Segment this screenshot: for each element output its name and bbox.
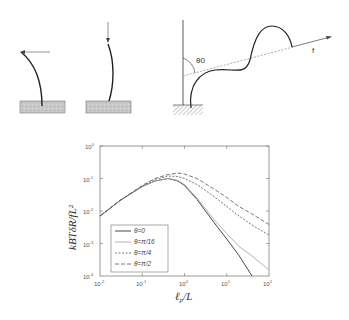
figure-canvas: θ0 f 100 10-1 10-2 10-3 10-4 xyxy=(0,0,349,320)
force-arrow-f xyxy=(292,37,330,47)
panel-b-longitudinal-force xyxy=(86,22,131,113)
svg-text:10-4: 10-4 xyxy=(83,272,94,280)
y-axis-label: kBTδR/fL² xyxy=(66,204,78,250)
legend: θ=0 θ=π/16 θ=π/4 θ=π/2 xyxy=(111,225,168,272)
svg-text:10-1: 10-1 xyxy=(136,279,147,287)
svg-text:100: 100 xyxy=(85,142,95,150)
filament-c xyxy=(191,26,292,108)
filament-a xyxy=(21,52,42,106)
svg-text:101: 101 xyxy=(221,279,231,287)
svg-text:10-3: 10-3 xyxy=(83,240,94,248)
clamp-hatch xyxy=(173,105,203,115)
arrowhead-b-icon xyxy=(106,38,110,43)
panel-c-angled-force: θ0 f xyxy=(173,20,332,115)
angle-arc xyxy=(183,58,195,73)
filament-b xyxy=(108,44,113,101)
x-tick-labels: 10-2 10-1 100 101 102 xyxy=(94,279,273,287)
svg-text:θ=π/2: θ=π/2 xyxy=(134,260,151,267)
chart: 100 10-1 10-2 10-3 10-4 10-2 10-1 100 10… xyxy=(66,142,273,304)
svg-text:10-1: 10-1 xyxy=(83,175,94,183)
svg-text:10-2: 10-2 xyxy=(83,207,94,215)
force-label-f: f xyxy=(312,46,315,55)
substrate-b xyxy=(86,101,131,113)
y-tick-labels: 100 10-1 10-2 10-3 10-4 xyxy=(83,142,95,280)
svg-text:10-2: 10-2 xyxy=(94,279,105,287)
arrowhead-f-icon xyxy=(326,36,332,40)
x-axis-label: ℓp/L xyxy=(175,290,192,304)
svg-text:θ=π/16: θ=π/16 xyxy=(134,238,155,245)
svg-text:θ=π/4: θ=π/4 xyxy=(134,249,151,256)
svg-text:102: 102 xyxy=(263,279,273,287)
svg-text:100: 100 xyxy=(179,279,189,287)
svg-text:θ=0: θ=0 xyxy=(134,227,145,234)
theta0-label: θ0 xyxy=(196,56,205,65)
panel-a-transverse-force xyxy=(20,50,65,113)
